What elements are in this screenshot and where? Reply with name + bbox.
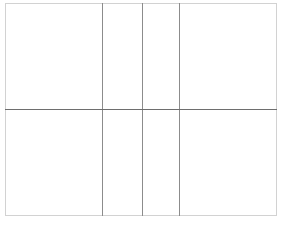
cell-r1c2[interactable] bbox=[103, 4, 143, 110]
table-row bbox=[6, 4, 277, 110]
empty-table-grid bbox=[5, 3, 277, 216]
cell-r2c3-text bbox=[143, 110, 178, 215]
cell-r1c3[interactable] bbox=[143, 4, 179, 110]
cell-r1c3-text bbox=[143, 4, 178, 109]
cell-r1c2-text bbox=[103, 4, 142, 109]
cell-r2c1[interactable] bbox=[6, 110, 103, 216]
cell-r2c4-text bbox=[180, 110, 276, 215]
cell-r2c2[interactable] bbox=[103, 110, 143, 216]
cell-r2c2-text bbox=[103, 110, 142, 215]
cell-r2c4[interactable] bbox=[179, 110, 276, 216]
cell-r2c1-text bbox=[6, 110, 102, 215]
page-canvas bbox=[0, 0, 282, 225]
cell-r1c4-text bbox=[180, 4, 276, 109]
cell-r1c1-text bbox=[6, 4, 102, 109]
table-row bbox=[6, 110, 277, 216]
cell-r2c3[interactable] bbox=[143, 110, 179, 216]
table-body bbox=[6, 4, 277, 216]
cell-r1c1[interactable] bbox=[6, 4, 103, 110]
cell-r1c4[interactable] bbox=[179, 4, 276, 110]
